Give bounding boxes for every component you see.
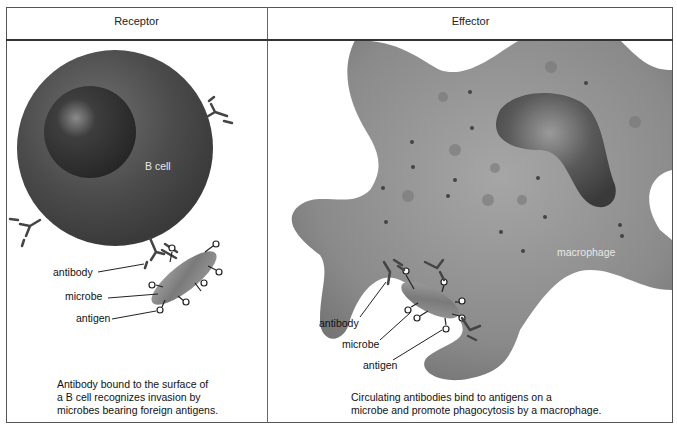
receptor-antibody-label: antibody (53, 266, 93, 278)
receptor-caption: Antibody bound to the surface of a B cel… (57, 378, 218, 417)
receptor-caption-line: a B cell recognizes invasion by (57, 391, 218, 404)
column-title-effector: Effector (268, 15, 673, 27)
header-divider (6, 39, 673, 41)
effector-antibody-label: antibody (319, 317, 359, 329)
receptor-caption-line: Antibody bound to the surface of (57, 378, 218, 391)
effector-caption-line: microbe and promote phagocytosis by a ma… (351, 404, 601, 417)
receptor-caption-line: microbes bearing foreign antigens. (57, 404, 218, 417)
effector-caption: Circulating antibodies bind to antigens … (351, 391, 601, 417)
effector-antigen-label: antigen (363, 359, 397, 371)
receptor-antigen-label: antigen (76, 312, 110, 324)
figure-frame (6, 7, 673, 423)
effector-caption-line: Circulating antibodies bind to antigens … (351, 391, 601, 404)
receptor-microbe-label: microbe (65, 290, 102, 302)
macrophage-label: macrophage (557, 246, 615, 258)
b-cell-label: B cell (145, 160, 171, 172)
effector-microbe-label: microbe (342, 338, 379, 350)
column-divider (267, 7, 268, 423)
column-title-receptor: Receptor (6, 15, 267, 27)
